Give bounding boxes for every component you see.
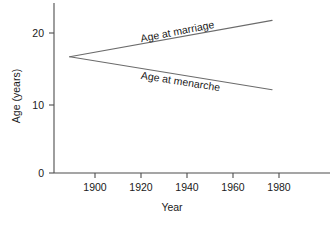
x-tick-label-1900: 1900 [83,181,107,193]
x-axis-title: Year [161,201,183,213]
y-tick-label-0: 0 [38,167,44,179]
series-label-age-at-menarche: Age at menarche [140,69,221,93]
y-axis-title: Age (years) [10,69,22,123]
x-tick-label-1920: 1920 [129,181,153,193]
x-tick-label-1940: 1940 [175,181,199,193]
y-tick-label-20: 20 [32,27,44,39]
y-tick-label-10: 10 [32,99,44,111]
line-chart: 20 10 0 1900 1920 1940 1960 1980 Year Ag… [0,0,332,225]
chart-figure: 20 10 0 1900 1920 1940 1960 1980 Year Ag… [0,0,332,225]
series-label-age-at-marriage: Age at marriage [139,18,215,44]
x-tick-label-1980: 1980 [267,181,291,193]
x-tick-label-1960: 1960 [221,181,245,193]
